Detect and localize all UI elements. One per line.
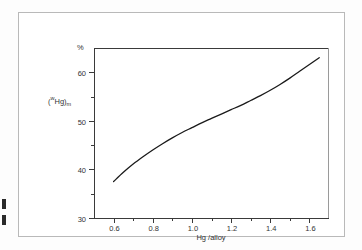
x-axis-minor-tick bbox=[133, 218, 134, 221]
x-axis-title: Hg /alloy bbox=[19, 233, 362, 242]
y-axis-title: (wHg)m bbox=[48, 96, 71, 108]
x-axis-tick: 0.6 bbox=[114, 218, 115, 223]
page-edge-mark-top bbox=[2, 199, 6, 209]
y-axis-unit-label: % bbox=[77, 43, 84, 52]
x-axis-title-text: Hg /alloy bbox=[196, 233, 225, 242]
x-axis-tick: 1.0 bbox=[192, 218, 193, 223]
figure-page: % (wHg)m 30405060 0.60.81.01.21.41.6 Hg … bbox=[0, 0, 362, 250]
x-axis-tick-label: 1.4 bbox=[266, 224, 276, 233]
x-axis-tick-label: 0.8 bbox=[149, 224, 159, 233]
x-axis-minor-tick bbox=[290, 218, 291, 221]
x-axis-minor-tick bbox=[172, 218, 173, 221]
x-axis-tick: 1.2 bbox=[231, 218, 232, 223]
x-axis-tick: 1.4 bbox=[270, 218, 271, 223]
figure-border: % (wHg)m 30405060 0.60.81.01.21.41.6 Hg … bbox=[18, 12, 345, 237]
x-axis-tick: 1.6 bbox=[309, 218, 310, 223]
page-edge-mark-bottom bbox=[2, 215, 6, 225]
y-axis-title-element: Hg bbox=[54, 97, 64, 106]
y-axis-tick: 30 bbox=[89, 218, 94, 219]
x-axis-tick-label: 1.6 bbox=[305, 224, 315, 233]
y-axis-tick-label: 40 bbox=[78, 166, 86, 175]
x-axis-tick-label: 1.2 bbox=[227, 224, 237, 233]
data-curve bbox=[94, 48, 329, 218]
x-axis-minor-tick bbox=[251, 218, 252, 221]
y-axis-tick-label: 30 bbox=[78, 215, 86, 224]
x-axis-tick: 0.8 bbox=[153, 218, 154, 223]
curve-path bbox=[114, 58, 320, 182]
plot-area: 30405060 0.60.81.01.21.41.6 bbox=[94, 48, 329, 218]
y-axis-title-subscript: m bbox=[67, 101, 72, 107]
x-axis-tick-label: 0.6 bbox=[109, 224, 119, 233]
y-axis-tick-label: 60 bbox=[78, 69, 86, 78]
x-axis-minor-tick bbox=[212, 218, 213, 221]
x-axis-tick-label: 1.0 bbox=[188, 224, 198, 233]
y-axis-tick-label: 50 bbox=[78, 117, 86, 126]
